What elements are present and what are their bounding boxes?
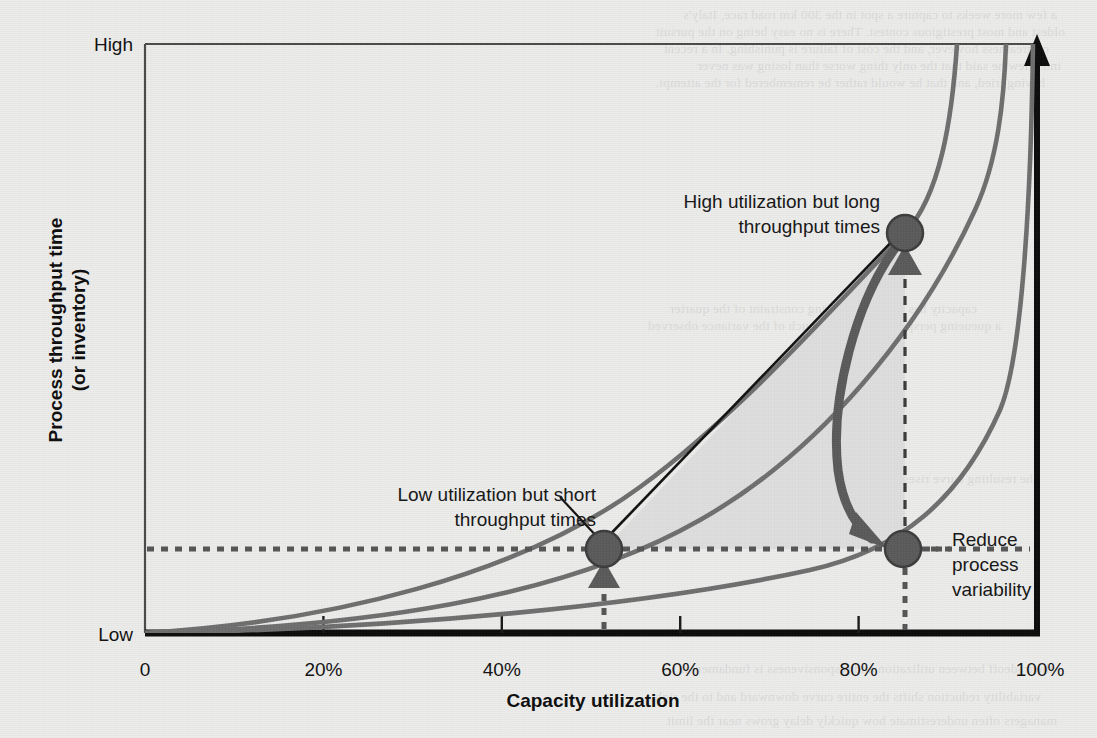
y-axis-title-group: Process throughput time (or inventory) xyxy=(45,218,89,443)
callout-low-line2: throughput times xyxy=(454,509,596,530)
y-axis-low-label: Low xyxy=(98,624,133,645)
y-axis-high-label: High xyxy=(94,34,133,55)
chart-svg: High Low 0 20% 40% 60% 80% 100% Capacity… xyxy=(0,0,1097,738)
x-tick-80: 80% xyxy=(840,659,878,680)
callout-reduce-variability: Reduce process variability xyxy=(952,529,1032,600)
callout-reduce-line2: process xyxy=(952,554,1019,575)
x-tick-20: 20% xyxy=(304,659,342,680)
x-tick-100: 100% xyxy=(1016,659,1065,680)
x-tick-40: 40% xyxy=(483,659,521,680)
y-axis-title-line2: (or inventory) xyxy=(68,269,89,391)
marker-low-utilization[interactable] xyxy=(586,531,622,567)
capacity-utilization-chart: High Low 0 20% 40% 60% 80% 100% Capacity… xyxy=(0,0,1097,738)
x-axis-title: Capacity utilization xyxy=(506,690,679,711)
callout-high-line2: throughput times xyxy=(738,216,880,237)
y-axis-arrow-icon xyxy=(1024,34,1050,66)
callout-low-line1: Low utilization but short xyxy=(397,484,596,505)
callout-reduce-line1: Reduce xyxy=(952,529,1018,550)
marker-reduce-variability[interactable] xyxy=(885,531,921,567)
callout-low-utilization: Low utilization but short throughput tim… xyxy=(397,484,596,530)
callout-high-line1: High utilization but long xyxy=(684,191,880,212)
x-tick-0: 0 xyxy=(140,659,151,680)
callout-high-utilization: High utilization but long throughput tim… xyxy=(684,191,880,237)
x-tick-60: 60% xyxy=(661,659,699,680)
y-axis-title-line1: Process throughput time xyxy=(45,218,66,443)
marker-high-utilization[interactable] xyxy=(887,215,923,251)
callout-reduce-line3: variability xyxy=(952,579,1032,600)
